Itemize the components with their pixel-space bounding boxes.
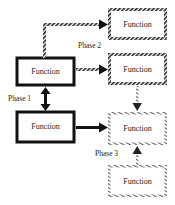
edge-right-bottom-to-right-lower bbox=[133, 146, 143, 165]
node-right-top-label: Function bbox=[108, 21, 167, 29]
edge-phase1-bidirectional bbox=[41, 87, 51, 111]
phase-2-label: Phase 2 bbox=[78, 42, 101, 50]
node-left-top-label: Function bbox=[17, 68, 74, 76]
phase-3-label: Phase 3 bbox=[95, 150, 118, 158]
node-right-mid-label: Function bbox=[108, 66, 167, 74]
node-left-bottom-label: Function bbox=[17, 123, 74, 131]
edge-right-mid-to-right-lower bbox=[133, 86, 143, 111]
edge-left-top-to-right-mid bbox=[76, 65, 108, 75]
node-right-bottom-label: Function bbox=[108, 178, 167, 186]
edge-left-bottom-to-right-lower bbox=[76, 123, 108, 133]
edge-left-top-to-right-top bbox=[43, 20, 108, 59]
phase-1-label: Phase 1 bbox=[8, 95, 31, 103]
node-right-lower-label: Function bbox=[108, 125, 167, 133]
